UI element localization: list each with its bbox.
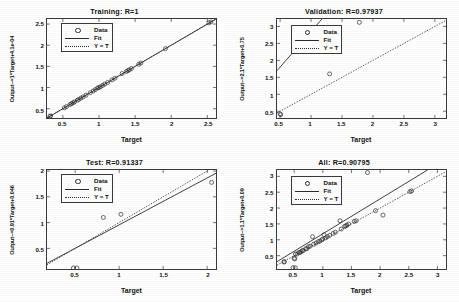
data-marker-icon [64, 26, 90, 33]
panel-all-ylabel: Output~=1.1*Target+0.09 [236, 169, 248, 270]
legend-row-data: Data [64, 177, 109, 184]
identity-line-icon [64, 193, 90, 200]
legend-label-yt: Y = T [90, 193, 109, 200]
y-tick-label: 1.5 [265, 74, 274, 81]
regression-figure: Training: R=1 Output~=1*Target+4.1e-04 0… [0, 0, 459, 302]
panel-training: Training: R=1 Output~=1*Target+4.1e-04 0… [0, 0, 229, 151]
legend-row-yt: Y = T [294, 195, 339, 202]
legend-label-data: Data [90, 177, 107, 184]
y-tick-label: 2 [270, 57, 273, 64]
panel-validation-ylabel-text: Output~=2.1*Target+0.75 [239, 37, 245, 100]
legend-label-yt: Y = T [320, 44, 339, 51]
legend-label-data: Data [320, 28, 337, 35]
y-tick-label: 0.5 [35, 106, 44, 113]
legend-row-yt: Y = T [64, 42, 109, 49]
panel-test-ylabel: Output~=0.91*Target+0.046 [6, 169, 18, 270]
panel-test-legend: Data Fit Y = T [61, 174, 113, 203]
x-tick-label: 1.5 [131, 120, 140, 127]
x-tick-label: 1.5 [337, 120, 346, 127]
x-tick-label: 2.5 [400, 120, 409, 127]
x-tick-label: 0.5 [58, 120, 67, 127]
legend-label-fit: Fit [320, 187, 332, 194]
x-tick-label: 1 [97, 120, 100, 127]
legend-label-data: Data [320, 179, 337, 186]
panel-training-ylabel-text: Output~=1*Target+4.1e-04 [9, 35, 15, 102]
legend-row-data: Data [294, 179, 339, 186]
panel-test-ylabel-text: Output~=0.91*Target+0.046 [9, 185, 15, 254]
x-tick-label: 2 [170, 120, 173, 127]
panel-test-yticks: 0.511.52 [20, 169, 44, 270]
x-tick-label: 3 [436, 271, 439, 278]
panel-all-title: All: R=0.90795 [230, 158, 459, 167]
legend-row-yt: Y = T [294, 44, 339, 51]
x-tick-label: 1.5 [159, 271, 168, 278]
x-tick-label: 1.5 [347, 271, 356, 278]
x-tick-label: 2.5 [405, 271, 414, 278]
legend-row-fit: Fit [64, 34, 109, 41]
panel-all-xlabel: Target [276, 287, 447, 294]
panel-validation-legend: Data Fit Y = T [291, 25, 343, 54]
panel-test-xlabel: Target [46, 287, 217, 294]
y-tick-label: 0.5 [35, 245, 44, 252]
data-marker-icon [294, 28, 320, 35]
panel-training-xticks: 0.511.522.5 [46, 120, 217, 129]
data-marker-icon [294, 179, 320, 186]
fit-line-icon [294, 187, 320, 194]
panel-training-ylabel: Output~=1*Target+4.1e-04 [6, 18, 18, 119]
y-tick-label: 2.5 [35, 20, 44, 27]
legend-label-data: Data [90, 26, 107, 33]
identity-line-icon [294, 195, 320, 202]
y-tick-label: 1 [270, 237, 273, 244]
panel-validation: Validation: R=0.97937 Output~=2.1*Target… [230, 0, 459, 151]
panel-validation-ylabel: Output~=2.1*Target+0.75 [236, 18, 248, 119]
fit-line-icon [64, 185, 90, 192]
legend-label-fit: Fit [90, 185, 102, 192]
identity-line-icon [64, 42, 90, 49]
legend-label-fit: Fit [90, 34, 102, 41]
panel-validation-xticks: 0.511.522.53 [276, 120, 447, 129]
fit-line-icon [64, 34, 90, 41]
panel-all-yticks: 0.511.522.53 [250, 169, 274, 270]
identity-line-icon [294, 44, 320, 51]
panel-validation-axes: Data Fit Y = T [276, 18, 447, 119]
x-tick-label: 1 [117, 271, 120, 278]
x-tick-label: 0.5 [274, 120, 283, 127]
panel-all-legend: Data Fit Y = T [291, 176, 343, 205]
y-tick-label: 1 [41, 219, 44, 226]
panel-all-axes: Data Fit Y = T [276, 169, 447, 270]
panel-validation-yticks: 0.511.522.53 [250, 18, 274, 119]
x-tick-label: 3 [433, 120, 436, 127]
panel-training-title: Training: R=1 [0, 7, 229, 16]
y-tick-label: 1.5 [265, 221, 274, 228]
y-tick-label: 2 [41, 167, 44, 174]
legend-label-fit: Fit [320, 36, 332, 43]
y-tick-label: 0.5 [265, 253, 274, 260]
panel-validation-title: Validation: R=0.97937 [230, 7, 459, 16]
panel-test-title: Test: R=0.91337 [0, 158, 229, 167]
y-tick-label: 1.5 [35, 63, 44, 70]
panel-all-xticks: 0.511.522.53 [276, 271, 447, 280]
y-tick-label: 1 [41, 84, 44, 91]
panel-all-ylabel-text: Output~=1.1*Target+0.09 [239, 188, 245, 251]
legend-label-yt: Y = T [90, 42, 109, 49]
x-tick-label: 2 [378, 271, 381, 278]
panel-test-axes: Data Fit Y = T [46, 169, 217, 270]
panel-test-xticks: 0.511.52 [46, 271, 217, 280]
y-tick-label: 2.5 [265, 188, 274, 195]
panel-test: Test: R=0.91337 Output~=0.91*Target+0.04… [0, 151, 229, 302]
y-tick-label: 2.5 [265, 39, 274, 46]
y-tick-label: 2 [270, 204, 273, 211]
x-tick-label: 2.5 [204, 120, 213, 127]
y-tick-label: 3 [270, 172, 273, 179]
y-tick-label: 0.5 [265, 109, 274, 116]
y-tick-label: 3 [270, 22, 273, 29]
x-tick-label: 2 [371, 120, 374, 127]
x-tick-label: 1 [320, 271, 323, 278]
x-tick-label: 0.5 [289, 271, 298, 278]
panel-validation-xlabel: Target [276, 136, 447, 143]
y-tick-label: 1 [270, 91, 273, 98]
panel-training-axes: Data Fit Y = T [46, 18, 217, 119]
legend-row-data: Data [294, 28, 339, 35]
data-marker-icon [64, 177, 90, 184]
x-tick-label: 1 [308, 120, 311, 127]
